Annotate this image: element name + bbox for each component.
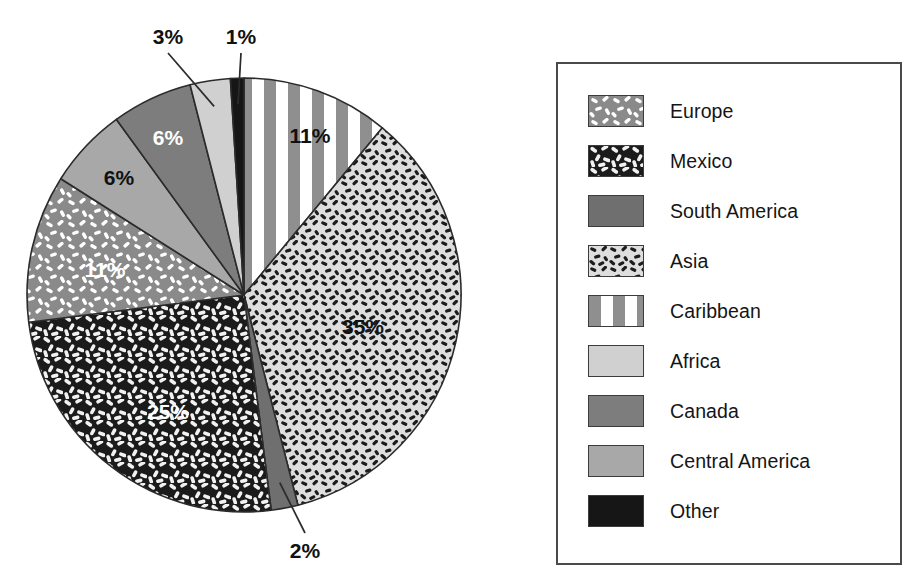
legend-item-mexico[interactable]: Mexico (588, 136, 884, 186)
pie-label-europe: 11% (85, 258, 126, 282)
legend-swatch-asia (588, 245, 644, 277)
pie-chart-figure: 11%35%2%25%11%6%6%3%1% EuropeMexicoSouth… (0, 0, 906, 583)
pie-label-canada: 6% (153, 126, 183, 150)
legend-item-central-america[interactable]: Central America (588, 436, 884, 486)
legend-item-europe[interactable]: Europe (588, 86, 884, 136)
legend-swatch-caribbean (588, 295, 644, 327)
legend-box: EuropeMexicoSouth AmericaAsiaCaribbeanAf… (556, 62, 902, 565)
legend-item-south-america[interactable]: South America (588, 186, 884, 236)
legend-swatch-south-america (588, 195, 644, 227)
legend-label-text: Other (670, 500, 719, 523)
legend-label-text: Central America (670, 450, 810, 473)
pie-label-africa: 3% (153, 25, 183, 49)
legend-label-text: South America (670, 200, 798, 223)
legend-swatch-africa (588, 345, 644, 377)
pie-label-asia: 35% (342, 315, 384, 339)
pie-label-caribbean: 11% (290, 124, 331, 148)
legend-item-canada[interactable]: Canada (588, 386, 884, 436)
legend-item-asia[interactable]: Asia (588, 236, 884, 286)
legend-item-other[interactable]: Other (588, 486, 884, 536)
legend-label-text: Mexico (670, 150, 732, 173)
pie-label-south-america: 2% (290, 539, 320, 563)
legend-label-text: Africa (670, 350, 720, 373)
legend-swatch-central-america (588, 445, 644, 477)
legend-swatch-mexico (588, 145, 644, 177)
legend-label-text: Europe (670, 100, 733, 123)
legend-item-africa[interactable]: Africa (588, 336, 884, 386)
legend-label-text: Asia (670, 250, 708, 273)
legend-swatch-other (588, 495, 644, 527)
legend-swatch-canada (588, 395, 644, 427)
pie-label-other: 1% (226, 25, 256, 49)
legend-label-text: Caribbean (670, 300, 761, 323)
pie-label-central-america: 6% (104, 166, 134, 190)
pie-slices-group (27, 78, 461, 512)
pie-label-mexico: 25% (147, 400, 189, 424)
legend-item-caribbean[interactable]: Caribbean (588, 286, 884, 336)
legend-label-text: Canada (670, 400, 739, 423)
legend-swatch-europe (588, 95, 644, 127)
legend-list: EuropeMexicoSouth AmericaAsiaCaribbeanAf… (588, 86, 884, 536)
